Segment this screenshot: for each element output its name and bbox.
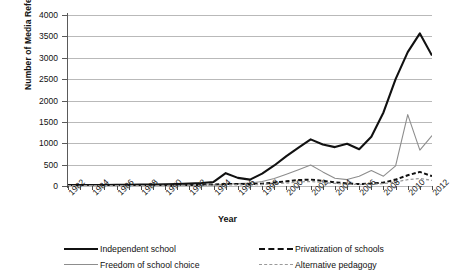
x-axis-tick bbox=[129, 186, 130, 190]
x-axis-tick bbox=[347, 186, 348, 190]
legend-swatch-icon bbox=[62, 243, 100, 255]
legend-swatch-icon bbox=[62, 259, 100, 271]
x-axis-title: Year bbox=[0, 214, 455, 224]
y-axis-tick-label: 1500 bbox=[2, 118, 58, 127]
plot-area bbox=[68, 15, 432, 186]
y-axis-tick-label: 500 bbox=[2, 161, 58, 170]
y-axis-tick-label: 2500 bbox=[2, 75, 58, 84]
legend-item-privatization-of-schools: Privatization of schools bbox=[257, 243, 384, 255]
legend-label: Freedom of school choice bbox=[100, 260, 199, 270]
x-axis-tick bbox=[250, 186, 251, 190]
x-axis-tick bbox=[226, 186, 227, 190]
series-line-independent-school bbox=[68, 33, 432, 185]
x-axis-tick bbox=[201, 186, 202, 190]
x-axis-tick bbox=[396, 186, 397, 190]
legend-label: Independent school bbox=[100, 244, 176, 254]
legend-item-independent-school: Independent school bbox=[62, 243, 257, 255]
legend-item-freedom-of-school-choice: Freedom of school choice bbox=[62, 259, 257, 271]
x-axis-tick bbox=[153, 186, 154, 190]
x-axis-tick bbox=[299, 186, 300, 190]
x-axis-tick bbox=[80, 186, 81, 190]
x-axis-tick bbox=[420, 186, 421, 190]
x-axis-tick bbox=[371, 186, 372, 190]
legend-item-alternative-pedagogy: Alternative pedagogy bbox=[257, 259, 377, 271]
legend-row: Freedom of school choice Alternative ped… bbox=[62, 257, 442, 273]
x-axis-tick bbox=[323, 186, 324, 190]
x-axis-tick bbox=[177, 186, 178, 190]
legend-swatch-icon bbox=[257, 259, 295, 271]
chart-legend: Independent school Privatization of scho… bbox=[62, 241, 442, 273]
y-axis-tick-label: 3500 bbox=[2, 32, 58, 41]
legend-label: Privatization of schools bbox=[295, 244, 384, 254]
legend-label: Alternative pedagogy bbox=[295, 260, 377, 270]
y-axis-tick-label: 1000 bbox=[2, 139, 58, 148]
chart-figure: Number of Media References 0500100015002… bbox=[0, 0, 455, 277]
series-lines bbox=[68, 15, 432, 186]
y-axis-tick-label: 4000 bbox=[2, 11, 58, 20]
y-axis-tick-label: 2000 bbox=[2, 97, 58, 106]
x-axis-tick bbox=[274, 186, 275, 190]
x-axis-tick bbox=[104, 186, 105, 190]
x-axis-tick-label: 2012 bbox=[431, 178, 450, 197]
legend-row: Independent school Privatization of scho… bbox=[62, 241, 442, 257]
y-axis-tick-label: 0 bbox=[2, 182, 58, 191]
y-axis-tick-label: 3000 bbox=[2, 54, 58, 63]
legend-swatch-icon bbox=[257, 243, 295, 255]
